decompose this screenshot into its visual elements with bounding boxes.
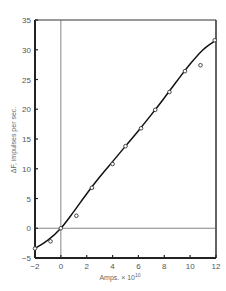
- data-point: [199, 63, 203, 67]
- data-point: [111, 162, 115, 166]
- data-point: [49, 240, 53, 244]
- y-tick-label: 5: [27, 195, 32, 204]
- x-tick-label: 8: [162, 262, 167, 271]
- y-tick-label: 10: [22, 165, 31, 174]
- y-axis-label: ΔF, impulses per sec.: [10, 107, 18, 174]
- data-point: [183, 69, 187, 73]
- x-tick-label: 10: [186, 262, 195, 271]
- x-tick-label: 0: [59, 262, 64, 271]
- x-tick-label: 6: [136, 262, 141, 271]
- y-tick-label: 25: [22, 76, 31, 85]
- y-tick-label: 15: [22, 135, 31, 144]
- data-point: [75, 214, 79, 218]
- data-point: [213, 38, 217, 42]
- chart: −505101520253035 −2024681012 ΔF, impulse…: [0, 0, 226, 291]
- data-point: [168, 90, 172, 94]
- data-point: [59, 226, 63, 230]
- y-tick-label: 0: [27, 224, 32, 233]
- data-point: [139, 126, 143, 130]
- plot-area: [33, 20, 216, 258]
- y-tick-label: 20: [22, 105, 31, 114]
- y-tick-label: 30: [22, 46, 31, 55]
- data-point: [33, 247, 37, 251]
- x-tick-label: 4: [110, 262, 115, 271]
- x-tick-label: 2: [84, 262, 89, 271]
- data-point: [124, 144, 128, 148]
- data-point: [153, 108, 157, 112]
- x-axis-label: Amps. × 1010: [99, 272, 140, 282]
- x-tick-label: −2: [30, 262, 40, 271]
- x-tick-label: 12: [212, 262, 221, 271]
- data-point: [90, 186, 94, 190]
- y-tick-label: 35: [22, 16, 31, 25]
